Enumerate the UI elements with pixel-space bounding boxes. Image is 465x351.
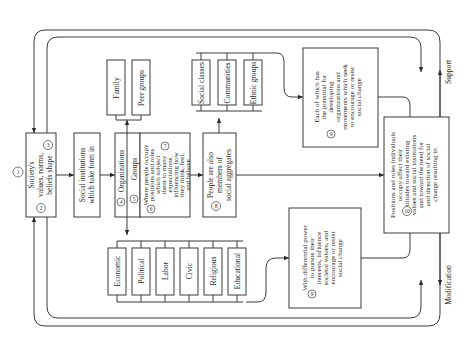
labor-box: Labor (161, 261, 170, 280)
num-9-top: 9 (330, 131, 333, 137)
modification-inner-arrow (410, 280, 421, 318)
institutions-line-1: Social institutions (78, 148, 87, 203)
institution-type-boxes: Economic Political Labor Civic Religious… (108, 241, 246, 302)
connector-potential (378, 97, 410, 117)
civic-box: Civic (185, 262, 194, 279)
aggregates-line-3: social aggregates (224, 149, 233, 201)
node-social-institutions: Social institutions which take form in (74, 133, 100, 217)
num-7: 7 (164, 143, 167, 149)
num-9-bottom: 9 (311, 291, 314, 297)
communities-box: Communities (223, 63, 232, 104)
peer-groups-box: Peer groups (137, 70, 146, 106)
support-label: Support (444, 59, 453, 84)
institutions-line-2: which take form in (87, 146, 96, 204)
node-social-aggregates: People are also members of social aggreg… (203, 133, 236, 217)
values-line-3: beliefs shape (45, 155, 54, 195)
node-potential: Each of which has the potential for deve… (303, 48, 378, 147)
religious-box: Religious (209, 256, 218, 285)
num-8: 8 (215, 203, 218, 209)
social-classes-box: Social classes (197, 62, 206, 104)
organizations-label: Organizations (117, 150, 126, 193)
node-society-values: 1 Society's values, norms, beliefs shape… (13, 133, 56, 217)
node-differential-power: With differential power to pursue their … (289, 208, 361, 308)
groups-label: Groups (130, 158, 139, 180)
support-loop-outer (34, 30, 440, 133)
aggregates-line-2: members of (215, 157, 224, 194)
political-box: Political (137, 258, 146, 283)
flowchart-diagram: 1 Society's values, norms, beliefs shape… (0, 0, 465, 351)
institution-types: Economic Political Labor Civic Religious… (108, 217, 289, 302)
num-5: 5 (133, 196, 136, 202)
connector-power (361, 233, 410, 258)
aggregate-types: Social classes Communities Ethnic groups (192, 53, 303, 133)
ethnic-groups-box: Ethnic groups (249, 62, 258, 104)
num-6: 6 (150, 206, 153, 212)
num-3: 3 (47, 142, 50, 148)
num-2: 2 (40, 205, 43, 211)
educational-box: Educational (233, 253, 242, 289)
support-inner-arrow (410, 37, 421, 72)
family-box: Family (112, 77, 121, 99)
potential-line-7: social change (355, 78, 363, 116)
num-4: 4 (120, 199, 123, 205)
num-10: 10 (404, 208, 410, 214)
values-line-1: Society's (27, 161, 36, 188)
aggregates-line-1: People are also (206, 152, 215, 198)
power-line-6: social change (336, 239, 344, 277)
economic-box: Economic (113, 255, 122, 286)
node-organizations-groups: Organizations 4 Groups 5 Where people oc… (115, 133, 192, 217)
values-line-2: values, norms, (36, 153, 45, 197)
num-1: 1 (17, 169, 20, 175)
modification-label: Modification (444, 265, 453, 305)
node-positions-roles: Positions and roles individuals occupy a… (384, 117, 449, 233)
positions-line-7: change resulting in (431, 148, 439, 202)
group-types: Family Peer groups (107, 60, 150, 133)
